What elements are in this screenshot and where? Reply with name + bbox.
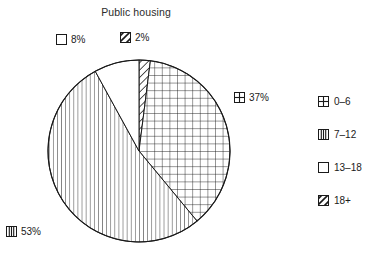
legend-item-7-12[interactable]: 7–12 — [318, 129, 362, 140]
legend-item-label: 13–18 — [334, 162, 362, 173]
swatch-vertical-lines-icon — [6, 226, 17, 237]
pie-data-label-18plus: 2% — [120, 32, 149, 43]
pie-data-label-13-18: 8% — [56, 34, 85, 45]
pie-data-label-value: 37% — [249, 93, 269, 103]
swatch-diagonal-hatch-icon — [120, 32, 131, 43]
swatch-solid-white-icon — [318, 162, 329, 173]
pie-chart-figure: Public housing — [0, 0, 380, 266]
legend-item-18plus[interactable]: 18+ — [318, 195, 362, 206]
swatch-vertical-lines-icon — [318, 129, 329, 140]
legend-item-13-18[interactable]: 13–18 — [318, 162, 362, 173]
pie-data-label-7-12: 53% — [6, 226, 41, 237]
swatch-solid-white-icon — [56, 34, 67, 45]
pie-data-label-value: 53% — [21, 227, 41, 237]
pie-data-label-value: 8% — [71, 35, 85, 45]
chart-legend: 0–6 7–12 13–18 — [318, 96, 362, 206]
pie-data-label-value: 2% — [135, 33, 149, 43]
swatch-crosshatch-grid-icon — [234, 92, 245, 103]
legend-item-0-6[interactable]: 0–6 — [318, 96, 362, 107]
legend-item-label: 18+ — [334, 195, 351, 206]
swatch-diagonal-hatch-icon — [318, 195, 329, 206]
swatch-crosshatch-grid-icon — [318, 96, 329, 107]
legend-item-label: 0–6 — [334, 96, 351, 107]
pie-data-label-0-6: 37% — [234, 92, 269, 103]
legend-item-label: 7–12 — [334, 129, 356, 140]
